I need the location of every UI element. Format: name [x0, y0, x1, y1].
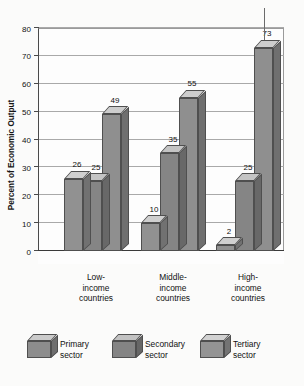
- bar-chart: Percent of Economic Output 0102030405060…: [0, 0, 304, 386]
- x-axis-category-label: Middle-incomecountries: [156, 272, 190, 304]
- legend-item[interactable]: Tertiarysector: [200, 334, 260, 360]
- legend-label-line: sector: [60, 350, 89, 361]
- bar-side-face: [179, 146, 187, 251]
- category-label-line: income: [231, 283, 265, 294]
- y-axis-tick-label: 40: [22, 136, 31, 145]
- legend-item[interactable]: Primarysector: [27, 334, 89, 360]
- bar-value-label: 25: [244, 163, 253, 172]
- y-axis-tick: [34, 222, 39, 223]
- chart-legend: PrimarysectorSecondarysectorTertiarysect…: [0, 334, 304, 382]
- bar-side-face: [83, 171, 91, 251]
- category-label-line: countries: [79, 293, 113, 304]
- y-axis-tick-label: 20: [22, 191, 31, 200]
- plot-area: 01020304050607080 26254910355522573: [38, 28, 284, 264]
- cube-face: [27, 341, 51, 358]
- y-axis-tick: [34, 83, 39, 84]
- legend-label-line: Tertiary: [233, 339, 260, 350]
- y-axis-tick-label: 70: [22, 52, 31, 61]
- y-axis-tick-label: 50: [22, 108, 31, 117]
- legend-label-line: Secondary: [145, 339, 185, 350]
- y-axis-tick-label: 30: [22, 163, 31, 172]
- cube-icon: [112, 341, 136, 358]
- y-axis-tick-label: 10: [22, 219, 31, 228]
- gridline: [38, 55, 284, 56]
- cube-face: [200, 341, 224, 358]
- bar-front-face: [141, 223, 160, 251]
- bar: [141, 223, 160, 251]
- bar-value-label: 2: [227, 227, 231, 236]
- annotation-leader-line: [264, 8, 265, 44]
- bar-side-face: [121, 107, 129, 251]
- bar: [64, 179, 83, 251]
- bar-side-face: [254, 174, 262, 251]
- bar-value-label: 55: [188, 79, 197, 88]
- cube-icon: [27, 341, 51, 358]
- gridline: [38, 27, 284, 28]
- category-label-line: income: [79, 283, 113, 294]
- bar-value-label: 35: [169, 135, 178, 144]
- gridline: [38, 83, 284, 84]
- y-axis-tick: [34, 139, 39, 140]
- cube-face: [112, 341, 136, 358]
- y-axis-tick: [34, 27, 39, 28]
- y-axis-tick-label: 60: [22, 80, 31, 89]
- y-axis-title: Percent of Economic Output: [4, 60, 18, 250]
- legend-label: Tertiarysector: [233, 339, 260, 360]
- y-axis-tick: [34, 166, 39, 167]
- category-label-line: Middle-: [156, 272, 190, 283]
- bar-value-label: 25: [92, 163, 101, 172]
- bar-value-label: 10: [150, 205, 159, 214]
- gridline: [38, 139, 284, 140]
- category-label-line: countries: [156, 293, 190, 304]
- legend-label-line: sector: [145, 350, 185, 361]
- bar-side-face: [198, 90, 206, 251]
- bar-value-label: 26: [73, 160, 82, 169]
- bar-value-label: 49: [111, 96, 120, 105]
- legend-label: Primarysector: [60, 339, 89, 360]
- legend-label: Secondarysector: [145, 339, 185, 360]
- chart-floor: [38, 251, 284, 264]
- x-axis-category-label: High-incomecountries: [231, 272, 265, 304]
- legend-label-line: Primary: [60, 339, 89, 350]
- y-axis-tick: [34, 55, 39, 56]
- y-axis-tick: [34, 194, 39, 195]
- bar: [216, 245, 235, 251]
- y-axis-tick-label: 80: [22, 24, 31, 33]
- y-axis-tick-label: 0: [27, 247, 31, 256]
- y-axis-title-label: Percent of Economic Output: [7, 100, 16, 211]
- bar-side-face: [102, 174, 110, 251]
- category-label-line: High-: [231, 272, 265, 283]
- category-label-line: income: [156, 283, 190, 294]
- bar-front-face: [64, 179, 83, 251]
- gridline: [38, 111, 284, 112]
- bar-front-face: [216, 245, 235, 251]
- x-axis-category-label: Low-incomecountries: [79, 272, 113, 304]
- category-label-line: Low-: [79, 272, 113, 283]
- y-axis-tick: [34, 111, 39, 112]
- cube-icon: [200, 341, 224, 358]
- legend-item[interactable]: Secondarysector: [112, 334, 185, 360]
- category-label-line: countries: [231, 293, 265, 304]
- bar-side-face: [273, 40, 281, 251]
- legend-label-line: sector: [233, 350, 260, 361]
